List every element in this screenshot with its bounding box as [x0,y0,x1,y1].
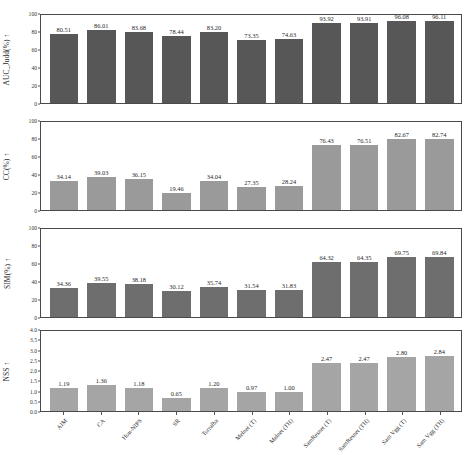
x-tick-mark [365,412,366,415]
x-tick-mark [63,412,64,415]
bar-value-label: 78.44 [169,28,183,35]
y-axis-label-auc-judd: AUC_Judd(%) ↑ [0,14,14,104]
bar: 74.63 [275,39,304,103]
bar-slot: 35.74 [195,229,233,317]
bar-value-label: 1.36 [96,377,107,384]
y-tick-label: 3.5 [30,337,37,343]
bar-value-label: 83.68 [132,24,146,31]
bar: 1.00 [275,392,304,411]
chart-panel-cc: CC(%) ↑ 020406080100 34.1439.0336.1519.4… [0,121,466,211]
bar-slot: 74.63 [270,15,308,103]
plot-area-auc-judd: 80.5186.0183.6878.4483.2073.3574.6393.92… [40,14,462,104]
bar: 83.68 [125,32,154,103]
bar: 86.01 [87,30,116,103]
x-tick-label: Sam Vgg (T) [380,417,407,446]
x-axis-category-slot: Torralba [195,412,233,474]
bar-value-label: 1.19 [58,380,69,387]
bar: 39.03 [87,177,116,210]
bar-value-label: 80.51 [57,26,71,33]
bar: 64.32 [312,262,341,317]
bar-slot: 1.18 [120,331,158,411]
bar: 96.11 [425,21,454,103]
bar-slot: 78.44 [158,15,196,103]
bar-value-label: 38.18 [132,276,146,283]
bar-slot: 27.35 [233,122,271,210]
bar-slot: 0.97 [233,331,271,411]
y-tick-label: 80 [31,29,37,35]
x-axis-category-slot: AIM [44,412,82,474]
y-tick-label: 60 [31,261,37,267]
bar: 0.65 [162,398,191,411]
bar: 31.83 [275,290,304,317]
bar-value-label: 1.18 [133,380,144,387]
bar: 73.35 [237,40,266,103]
plot-area-cc: 34.1439.0336.1519.4634.0427.3528.2476.43… [40,121,462,211]
y-tick-label: 60 [31,47,37,53]
bar-value-label: 34.04 [207,173,221,180]
bar: 93.92 [312,23,341,103]
bar: 1.36 [87,385,116,411]
bar-slot: 83.20 [195,15,233,103]
y-tick-label: 100 [29,11,37,17]
y-axis-label-text: CC(%) ↑ [3,152,12,180]
y-tick-label: 20 [31,83,37,89]
y-axis-label-nss: NSS ↑ [0,330,14,412]
bar: 78.44 [162,36,191,103]
bar-slot: 2.80 [383,331,421,411]
bar-slot: 83.68 [120,15,158,103]
bar-slot: 34.04 [195,122,233,210]
bar: 0.97 [237,392,266,411]
bar-slot: 1.20 [195,331,233,411]
y-tick-label: 2.0 [30,368,37,374]
bar: 31.54 [237,290,266,317]
x-axis-category-slot: Melnet (T) [233,412,271,474]
bar-slot: 69.84 [420,229,458,317]
bar-slot: 76.43 [308,122,346,210]
y-tick-label: 0.5 [30,399,37,405]
bar-value-label: 2.80 [396,349,407,356]
bar: 34.04 [200,181,229,210]
bar: 82.67 [387,139,416,210]
bar-value-label: 36.15 [132,171,146,178]
bar-value-label: 34.36 [57,280,71,287]
bar-value-label: 64.35 [357,254,371,261]
bar: 82.74 [425,139,454,210]
bar: 69.75 [387,257,416,317]
bar-value-label: 30.12 [169,283,183,290]
bar-value-label: 31.54 [244,282,258,289]
x-tick-mark [252,412,253,415]
bar-value-label: 76.43 [319,137,333,144]
y-tick-label: 40 [31,279,37,285]
x-tick-mark [101,412,102,415]
bar-slot: 2.47 [308,331,346,411]
plot-area-nss: 1.191.361.180.651.200.971.002.472.472.80… [40,330,462,412]
x-tick-label: AIM [55,417,68,431]
bar-slot: 96.08 [383,15,421,103]
bar: 2.47 [350,363,379,411]
bar-slot: 34.14 [45,122,83,210]
bar-slot: 2.47 [345,331,383,411]
bar-slot: 39.55 [83,229,121,317]
bar-value-label: 82.74 [432,131,446,138]
bar: 2.84 [425,356,454,411]
bar-value-label: 35.74 [207,279,221,286]
y-tick-label: 40 [31,172,37,178]
bar-slot: 31.83 [270,229,308,317]
bar: 76.43 [312,145,341,210]
y-tick-label: 1.0 [30,389,37,395]
bar: 34.14 [50,181,79,210]
bar-slot: 73.35 [233,15,271,103]
bar-value-label: 34.14 [57,173,71,180]
bar: 38.18 [125,284,154,317]
x-tick-label: Melnet (T) [233,417,257,442]
bar-value-label: 69.75 [394,249,408,256]
x-tick-mark [289,412,290,415]
y-axis-ticks-nss: 0.00.51.01.52.02.53.03.54.0 [14,330,40,412]
x-axis-category-slot: Hou-NIPS [119,412,157,474]
bar: 76.51 [350,145,379,210]
bar-slot: 76.51 [345,122,383,210]
bar-slot: 30.12 [158,229,196,317]
y-tick-label: 20 [31,190,37,196]
bar: 28.24 [275,186,304,210]
bar-value-label: 31.83 [282,282,296,289]
